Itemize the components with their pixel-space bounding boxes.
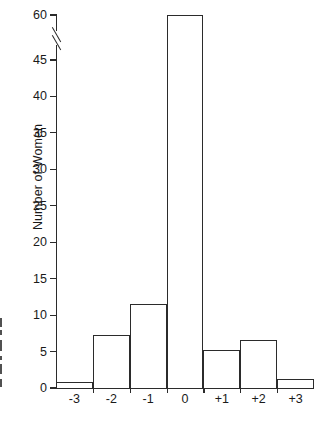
bar-0: [167, 15, 204, 388]
edge-fragment-3: [0, 340, 2, 351]
bar--2: [93, 335, 130, 388]
x-axis-tick-labels: -3-2-10+1+2+3: [56, 392, 314, 412]
y-tick-label-10: 10: [33, 308, 47, 322]
x-tick-label-0: 0: [182, 392, 189, 406]
y-tick-label-20: 20: [33, 235, 47, 249]
bar-+2: [240, 340, 277, 388]
y-tick-label-0: 0: [40, 381, 47, 395]
x-tick-label-+2: +2: [252, 392, 266, 406]
edge-fragment-6: [0, 379, 2, 387]
y-axis-title: Number of Women: [31, 97, 45, 257]
bar-group: [56, 14, 314, 389]
y-tick-label-15: 15: [33, 272, 47, 286]
plot-area: 05101520253035404560: [56, 14, 314, 389]
y-tick-label-60: 60: [33, 8, 47, 22]
y-axis-break-marker: [49, 23, 71, 53]
x-tick-label--1: -1: [143, 392, 154, 406]
y-tick-label-30: 30: [33, 162, 47, 176]
edge-fragment-2: [0, 330, 2, 335]
histogram-figure: Number of Women 05101520253035404560 -3-…: [0, 0, 324, 421]
bar--1: [130, 304, 167, 388]
x-tick-label--3: -3: [69, 392, 80, 406]
edge-artifact-fragments: [0, 318, 7, 394]
bar-+3: [277, 379, 314, 388]
y-tick-label-45: 45: [33, 53, 47, 67]
y-tick-label-40: 40: [33, 89, 47, 103]
bar--3: [56, 382, 93, 388]
edge-fragment-1: [0, 318, 2, 327]
x-tick-label-+1: +1: [215, 392, 229, 406]
x-tick-label--2: -2: [106, 392, 117, 406]
bar-+1: [203, 350, 240, 389]
y-tick-label-25: 25: [33, 199, 47, 213]
edge-fragment-5: [0, 364, 2, 374]
x-tick-label-+3: +3: [288, 392, 302, 406]
y-tick-label-35: 35: [33, 126, 47, 140]
y-tick-label-5: 5: [40, 345, 47, 359]
edge-fragment-4: [0, 356, 2, 360]
